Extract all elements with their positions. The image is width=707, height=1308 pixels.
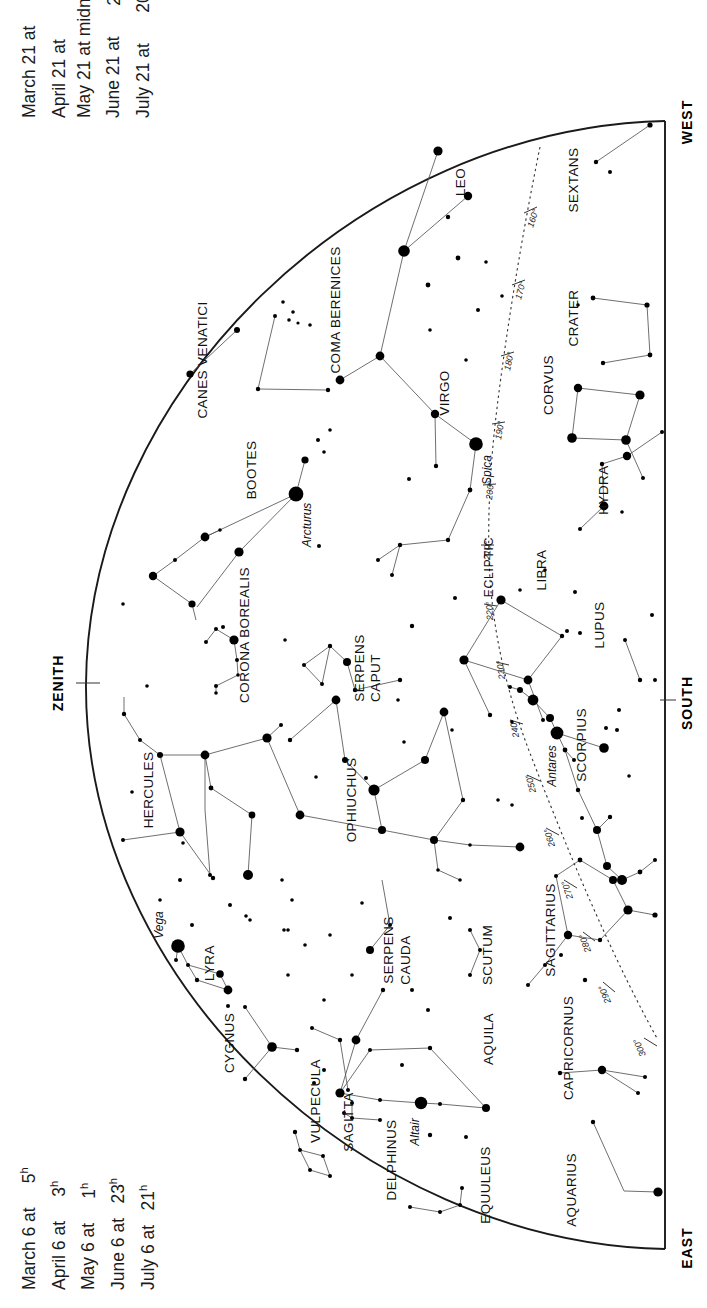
constellation-label: SEXTANS	[566, 148, 581, 213]
constellation-label: DELPHINUS	[384, 1120, 399, 1201]
ecliptic-deg-label: 280°	[577, 932, 593, 954]
constellation-label: VIRGO	[437, 370, 452, 416]
star-label-vega: Vega	[152, 911, 166, 939]
constellation-label: SCUTUM	[480, 925, 495, 985]
star-antares	[551, 727, 564, 740]
constellation-label: SERPENS	[352, 634, 367, 701]
ecliptic-path	[489, 147, 658, 1040]
constellation-label: HERCULES	[141, 752, 156, 829]
star-arcturus	[289, 487, 304, 502]
ecliptic-label: ECLIPTIC	[482, 537, 496, 597]
ecliptic-deg-label: 300°	[631, 1037, 648, 1058]
ecliptic-deg-label: 260°	[542, 827, 557, 849]
ecliptic-deg-label: 160°	[525, 207, 540, 228]
constellation-label: VULPECULA	[308, 1059, 323, 1143]
sky-map: 160° 170° 180° 190° 200° 210° 220° 230° …	[0, 0, 707, 1308]
star-label-antares: Antares	[545, 745, 559, 787]
constellation-label: LYRA	[202, 945, 217, 981]
star-label-spica: Spica	[480, 455, 494, 485]
constellation-labels: LEO SEXTANS COMA BERENICES CANES VENATIC…	[141, 148, 611, 1227]
ecliptic-deg-label: 250°	[524, 773, 539, 795]
constellation-label: CAPUT	[368, 654, 383, 702]
ecliptic-deg-label: 240°	[508, 718, 521, 739]
ecliptic-deg-label: 270°	[560, 879, 576, 901]
constellation-label: LIBRA	[534, 549, 549, 590]
constellation-label: SAGITTARIUS	[543, 883, 558, 976]
cardinal-label-south: SOUTH	[679, 676, 695, 730]
stars	[121, 122, 664, 1214]
constellation-label: AQUARIUS	[564, 1153, 579, 1227]
star-label-arcturus: Arcturus	[300, 503, 314, 549]
constellation-label: LUPUS	[592, 601, 607, 648]
constellation-label: CORVUS	[541, 355, 556, 415]
star-chart-page: March 21 at4h April 21 at2h May 21 at mi…	[0, 0, 707, 1308]
constellation-label: CANES VENATICI	[195, 301, 210, 418]
cardinal-label-west: WEST	[679, 100, 695, 144]
constellation-label: SAGITTA	[341, 1092, 356, 1152]
ecliptic-deg-label: 290°	[596, 984, 613, 1006]
cardinal-label-zenith: ZENITH	[50, 655, 66, 712]
constellation-label: CRATER	[566, 290, 581, 347]
star-label-altair: Altair	[408, 1117, 422, 1146]
constellation-label: SERPENS	[381, 916, 396, 983]
constellation-label: HYDRA	[596, 465, 611, 514]
constellation-label: CYGNUS	[222, 1013, 237, 1073]
constellation-label: CAUDA	[398, 935, 413, 984]
constellation-label: AQUILA	[481, 1013, 496, 1065]
constellation-label: EQUULEUS	[478, 1146, 493, 1223]
constellation-label: COMA BERENICES	[328, 246, 343, 373]
ecliptic-deg-label: 170°	[513, 280, 528, 301]
constellation-label: BOOTES	[244, 441, 259, 500]
constellation-lines	[123, 125, 662, 1212]
constellation-label: LEO	[453, 168, 468, 196]
constellation-label: CAPRICORNUS	[561, 996, 576, 1100]
constellation-label: SCORPIUS	[574, 708, 589, 782]
star-spica	[469, 437, 483, 451]
constellation-label: OPHIUCHUS	[344, 758, 359, 843]
cardinal-label-east: EAST	[679, 1227, 695, 1268]
ecliptic-deg-label: 180°	[502, 351, 516, 372]
star-vega	[171, 939, 185, 953]
ecliptic-deg-label: 190°	[493, 420, 506, 440]
constellation-label: CORONA BOREALIS	[237, 567, 252, 703]
star-altair	[415, 1097, 427, 1109]
